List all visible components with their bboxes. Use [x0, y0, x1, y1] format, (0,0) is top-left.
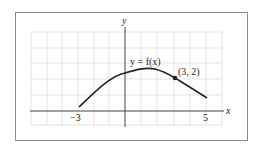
point-label: (3, 2): [178, 66, 200, 78]
curve-label: y = f(x): [130, 56, 161, 68]
point-marker: [173, 76, 178, 81]
graph: y x y = f(x) (3, 2) −3 5: [0, 0, 260, 149]
tick-label-5: 5: [203, 112, 208, 123]
y-axis-label: y: [121, 15, 127, 26]
tick-label-neg3: −3: [70, 112, 81, 123]
x-axis-label: x: [225, 105, 231, 116]
